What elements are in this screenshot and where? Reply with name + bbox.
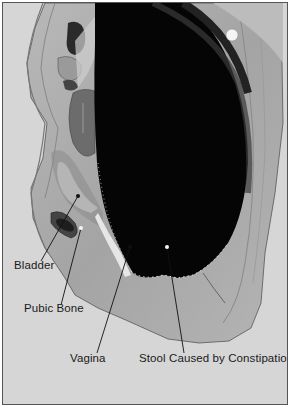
label-stool: Stool Caused by Constipation <box>139 352 288 364</box>
anatomy-figure: Bladder Pubic Bone Vagina Stool Caused b… <box>2 2 288 405</box>
label-bladder: Bladder <box>14 259 54 271</box>
label-pubic-bone: Pubic Bone <box>24 302 84 314</box>
sagittal-section-illustration <box>3 3 288 405</box>
label-vagina: Vagina <box>70 352 106 364</box>
marker-circle <box>226 29 238 41</box>
